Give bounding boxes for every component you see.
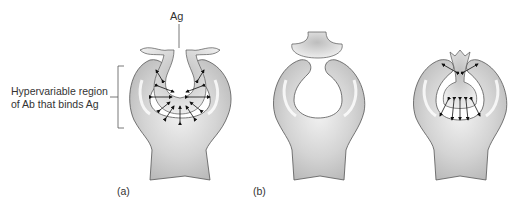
- antigen-label: Ag: [170, 10, 183, 23]
- panel-b-label: (b): [253, 185, 266, 197]
- panel-a-label: (a): [117, 185, 130, 197]
- antigen-b-unbound: [292, 32, 343, 58]
- antigen-b-bound: [443, 50, 476, 109]
- region-label-line2: of Ab that binds Ag: [11, 98, 99, 110]
- bracket: [110, 66, 124, 128]
- antibody-b-unbound: [273, 60, 364, 180]
- region-label-line1: Hypervariable region: [11, 85, 108, 97]
